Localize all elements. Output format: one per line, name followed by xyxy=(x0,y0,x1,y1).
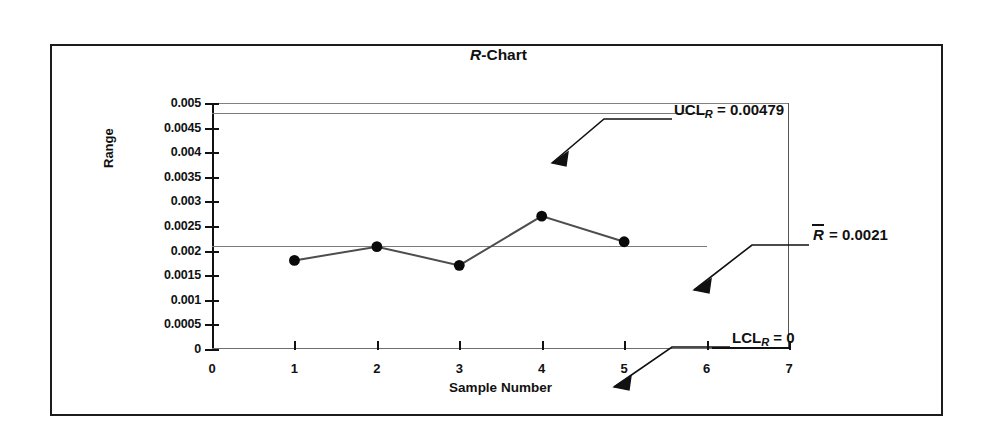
data-point xyxy=(536,211,547,222)
rbar-value: = 0.0021 xyxy=(825,226,888,243)
y-tick-label: 0.004 xyxy=(171,145,201,159)
rbar-annotation: R = 0.0021 xyxy=(812,226,888,243)
y-tick-label: 0.0005 xyxy=(164,317,201,331)
lcl-subscript: R xyxy=(761,336,769,348)
series-line xyxy=(294,216,624,265)
y-tick-label: 0.005 xyxy=(171,96,201,110)
lcl-annotation: LCLR = 0 xyxy=(732,329,795,348)
ucl-subscript: R xyxy=(705,108,713,120)
series-layer xyxy=(212,103,789,349)
y-tick xyxy=(205,349,219,351)
x-tick-label: 6 xyxy=(703,361,710,376)
data-point xyxy=(619,236,630,247)
data-point xyxy=(371,241,382,252)
chart-title-italic: R xyxy=(470,46,481,63)
lcl-value: = 0 xyxy=(769,329,794,346)
y-tick-label: 0 xyxy=(194,342,201,356)
plot-area: 00.00050.0010.00150.0020.00250.0030.0035… xyxy=(212,103,789,349)
x-tick-label: 7 xyxy=(785,361,792,376)
x-tick-label: 2 xyxy=(373,361,380,376)
y-tick-label: 0.0045 xyxy=(164,121,201,135)
lcl-prefix: LCL xyxy=(732,329,761,346)
chart-title-rest: -Chart xyxy=(481,46,527,63)
y-tick-label: 0.0015 xyxy=(164,268,201,282)
figure-frame: R-Chart Range Sample Number 00.00050.001… xyxy=(50,44,943,416)
x-axis-title: Sample Number xyxy=(212,380,789,395)
ucl-value: = 0.00479 xyxy=(713,101,784,118)
x-tick-label: 4 xyxy=(538,361,545,376)
ucl-annotation: UCLR = 0.00479 xyxy=(674,101,784,120)
ucl-prefix: UCL xyxy=(674,101,705,118)
y-tick-label: 0.0035 xyxy=(164,170,201,184)
y-tick-label: 0.0025 xyxy=(164,219,201,233)
data-point xyxy=(454,260,465,271)
x-tick-label: 1 xyxy=(291,361,298,376)
y-tick-label: 0.001 xyxy=(171,293,201,307)
x-tick-label: 5 xyxy=(621,361,628,376)
data-point xyxy=(289,255,300,266)
y-tick-label: 0.003 xyxy=(171,194,201,208)
x-tick-label: 3 xyxy=(456,361,463,376)
chart-title: R-Chart xyxy=(52,46,945,64)
rbar-prefix: R xyxy=(812,226,825,243)
y-tick-label: 0.002 xyxy=(171,244,201,258)
x-tick-label: 0 xyxy=(208,361,215,376)
y-axis-title: Range xyxy=(101,128,116,168)
